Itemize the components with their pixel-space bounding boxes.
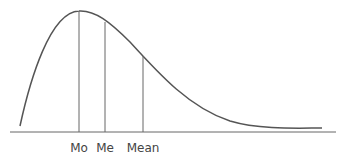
mean-label: Mean xyxy=(127,141,160,155)
skewed-distribution-diagram: Mo Me Mean xyxy=(0,0,347,160)
median-label: Me xyxy=(96,141,114,155)
mode-label: Mo xyxy=(70,141,88,155)
distribution-curve xyxy=(20,11,322,128)
